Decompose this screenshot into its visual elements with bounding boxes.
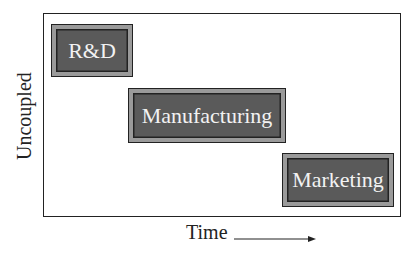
time-arrow-icon (234, 234, 316, 244)
y-axis-label: Uncoupled (12, 100, 36, 160)
phase-box-rnd: R&D (52, 25, 132, 76)
x-axis-label: Time (186, 219, 228, 245)
phase-box-manufacturing: Manufacturing (129, 89, 285, 142)
phase-box-marketing: Marketing (283, 154, 393, 206)
